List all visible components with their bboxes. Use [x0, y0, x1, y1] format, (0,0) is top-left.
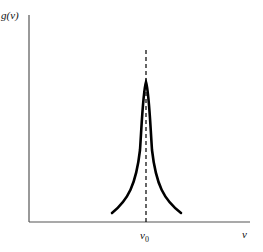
y-axis-label: g(ν) — [1, 9, 19, 22]
x-axis-label: ν — [242, 228, 247, 240]
center-label: ν0 — [140, 229, 149, 244]
line-shape-diagram: g(ν) ν ν0 — [0, 0, 263, 252]
